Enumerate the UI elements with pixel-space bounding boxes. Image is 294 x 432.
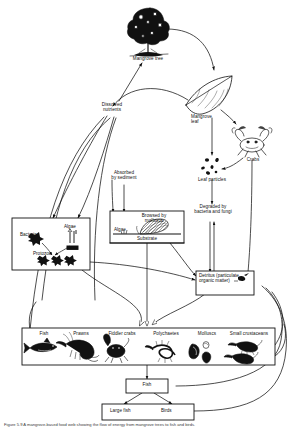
label-consumer-molluscs: Molluscs [190,331,224,336]
particles-icon [201,157,220,175]
label-mangrove-tree: Mangrove tree [116,56,180,61]
label-browsed-by-molluscs: Browsed by molluscs [130,213,178,224]
label-consumer-polychaetes: Polychaetes [145,331,187,336]
label-substrate: Substrate [123,236,171,241]
label-degraded-by-bacteria-fungi: Degraded by bacteria and fungi [184,204,242,215]
line-nutrients-left-long [42,118,110,300]
label-fish-box: Fish [126,382,168,387]
arrow-detritus-to-consumers [153,294,205,324]
box-microbes [12,218,90,270]
label-birds: Birds [161,408,191,413]
label-mangrove-leaf: Mangrove leaf [191,114,231,125]
arrow-nutrients-to-bacteria [53,116,107,218]
arrow-microbes-to-consumers [82,270,142,325]
label-bacteria: Bacteria [20,232,37,237]
label-crabs: Crabs [238,157,268,162]
label-consumer-small-crustaceans: Small crustaceans [224,331,274,336]
arrow-fish-to-largefish [124,393,142,404]
tree-icon [127,8,169,57]
crab-icon [232,126,272,157]
line-crabs-down [248,160,252,272]
label-protozoa: Protozoa [33,251,51,256]
label-absorbed-by-sediment: Absorbed by sediment [100,170,148,181]
label-large-fish: Large fish [110,408,150,413]
arrow-fish-to-birds [154,393,172,404]
arrow-to-substrate-algae [112,180,113,212]
label-consumer-fish: Fish [28,331,60,336]
label-leaf-particles: Leaf particles [188,177,236,182]
arrow-tree-to-leaf [167,29,214,70]
line-consumers-right-small [275,324,286,356]
arrow-nutrients-to-tree [119,63,142,101]
figure-mangrove-food-web: Mangrove tree Mangrove leaf Dissolved nu… [0,0,294,432]
arrow-microbes-to-detritus [90,262,195,280]
label-consumer-fiddler-crabs: Fiddler crabs [100,331,144,336]
label-detritus: Detritus (particulate organic matter) [199,273,241,284]
label-consumer-prawns: Prawns [63,331,99,336]
label-algae-microbes: Algae [64,224,76,229]
leaf-icon [186,76,232,114]
arrow-substrate-to-detritus [170,243,196,276]
label-algae-substrate: Algae [114,227,126,232]
figure-caption: Figure 5.9 A mangrove-based food web sho… [4,422,290,427]
label-dissolved-nutrients: Dissolved nutrients [90,102,134,113]
